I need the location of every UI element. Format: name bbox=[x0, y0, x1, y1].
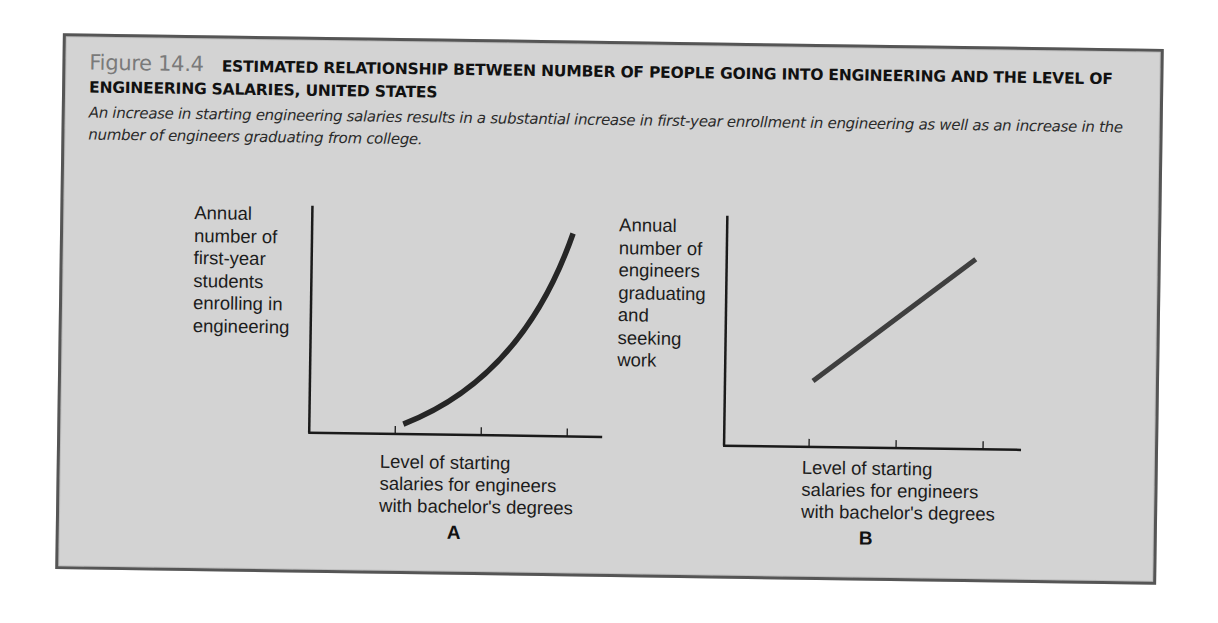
panel-a-enrollment-curve bbox=[403, 231, 573, 426]
charts-canvas bbox=[58, 36, 1160, 582]
panel-a-y-axis bbox=[309, 206, 312, 433]
figure-frame: Figure 14.4ESTIMATED RELATIONSHIP BETWEE… bbox=[55, 33, 1164, 585]
panel-b-x-axis bbox=[723, 446, 1021, 450]
panel-b-chart bbox=[723, 216, 1024, 450]
panel-b-y-axis bbox=[724, 216, 727, 446]
panel-a-chart bbox=[308, 206, 605, 437]
panel-b-graduates-line bbox=[813, 257, 976, 383]
panel-a-x-axis bbox=[308, 433, 602, 437]
